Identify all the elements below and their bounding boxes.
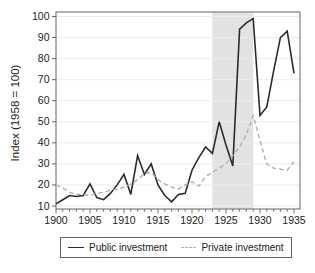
- legend-label-public: Public investment: [89, 242, 167, 253]
- legend: Public investment Private investment: [60, 237, 292, 258]
- y-tick-label: 70: [38, 73, 50, 85]
- y-tick-label: 10: [38, 200, 50, 212]
- y-tick-label: 20: [38, 178, 50, 190]
- x-tick-label: 1925: [214, 214, 238, 226]
- y-tick-label: 50: [38, 115, 50, 127]
- y-tick-label: 30: [38, 157, 50, 169]
- x-tick-label: 1915: [146, 214, 170, 226]
- x-tick-label: 1935: [282, 214, 306, 226]
- public-line-sample: [68, 247, 84, 248]
- shaded-region: [212, 13, 253, 209]
- x-tick-label: 1920: [180, 214, 204, 226]
- x-tick-label: 1905: [78, 214, 102, 226]
- plot-area: 1020304050607080901001900190519101915192…: [0, 0, 315, 273]
- x-tick-label: 1900: [44, 214, 68, 226]
- y-tick-label: 40: [38, 136, 50, 148]
- public-investment-line: [56, 19, 294, 204]
- chart-figure: Index (1958 = 100) 102030405060708090100…: [0, 0, 315, 273]
- x-tick-label: 1910: [112, 214, 136, 226]
- y-tick-label: 80: [38, 52, 50, 64]
- private-investment-line: [56, 116, 294, 196]
- private-line-sample: [181, 247, 196, 248]
- y-tick-label: 60: [38, 94, 50, 106]
- legend-label-private: Private investment: [201, 242, 283, 253]
- y-tick-label: 90: [38, 31, 50, 43]
- x-tick-label: 1930: [248, 214, 272, 226]
- y-tick-label: 100: [32, 10, 50, 22]
